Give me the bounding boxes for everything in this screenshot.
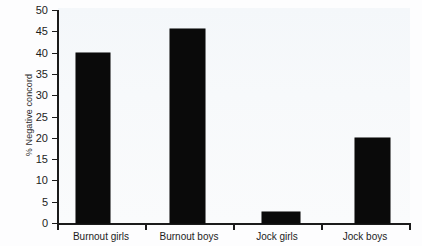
x-tick-label-burnout-girls: Burnout girls [73,231,129,242]
x-tick-mark-start [57,224,59,230]
y-axis-tick-labels: 50 45 40 35 30 25 20 15 10 5 0 [22,0,48,246]
y-tick-label-40: 40 [24,47,48,58]
y-tick-label-5: 5 [24,196,48,207]
x-tick-mark-2 [233,224,235,230]
y-tick-label-25: 25 [24,111,48,122]
y-tick-label-50: 50 [24,5,48,16]
y-tick-label-35: 35 [24,68,48,79]
x-tick-label-jock-boys: Jock boys [343,231,387,242]
y-tick-label-10: 10 [24,175,48,186]
y-tick-label-45: 45 [24,26,48,37]
bar-burnout-boys [170,29,205,223]
y-tick-label-0: 0 [24,218,48,229]
y-axis-line [57,10,59,224]
x-tick-label-jock-girls: Jock girls [256,231,298,242]
y-tick-label-15: 15 [24,154,48,165]
x-tick-mark-1 [145,224,147,230]
x-tick-mark-end [409,224,411,230]
bar-burnout-girls [76,53,110,223]
bar-chart-figure: % Negative concord 50 45 40 35 30 25 20 … [0,0,422,246]
y-tick-label-20: 20 [24,132,48,143]
bar-jock-girls [262,212,300,223]
x-tick-label-burnout-boys: Burnout boys [160,231,219,242]
x-tick-mark-3 [321,224,323,230]
y-tick-label-30: 30 [24,90,48,101]
bar-jock-boys [355,138,390,223]
